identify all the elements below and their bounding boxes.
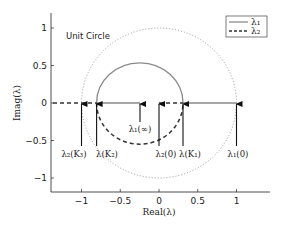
- x-axis-title: Real(λ): [142, 207, 175, 217]
- label-lambda-k2: λ(K₂): [96, 149, 118, 159]
- legend-label-lambda2: λ₂: [251, 26, 261, 36]
- y-tick-label: −0.5: [25, 136, 47, 146]
- x-tick-label: −0.5: [109, 196, 131, 206]
- label-lambda1-0: λ₁(0): [228, 149, 249, 159]
- lambda1-arc: [97, 63, 183, 103]
- y-tick-label: 0: [41, 98, 47, 108]
- y-tick-label: −1: [34, 173, 47, 183]
- x-tick-label: 0: [156, 196, 162, 206]
- unit-circle-label: Unit Circle: [66, 31, 110, 41]
- x-ticks: −1 −0.5 0 0.5 1: [75, 189, 240, 206]
- y-tick-label: 1: [41, 23, 47, 33]
- axes: 1 0.5 0 −0.5 −1 −1 −0.5 0 0.5 1 Real(λ) …: [12, 13, 270, 217]
- label-lambda-k1: λ(K₁): [179, 149, 201, 159]
- series-lambda2: [53, 103, 183, 144]
- label-lambda1-inf: λ₁(∞): [129, 124, 152, 134]
- y-tick-label: 0.5: [33, 61, 47, 71]
- y-ticks: 1 0.5 0 −0.5 −1: [25, 23, 54, 183]
- x-tick-label: 1: [234, 196, 240, 206]
- annotation-labels: λ₂(K₃) λ(K₂) λ₁(∞) λ₂(0) λ(K₁) λ₁(0): [61, 124, 248, 159]
- legend-box: [226, 16, 267, 37]
- root-locus-chart: 1 0.5 0 −0.5 −1 −1 −0.5 0 0.5 1 Real(λ) …: [0, 0, 283, 227]
- x-tick-label: −1: [75, 196, 88, 206]
- x-tick-label: 0.5: [191, 196, 205, 206]
- legend: λ₁ λ₂: [226, 16, 267, 37]
- annotation-arrows: [82, 104, 237, 146]
- label-lambda2-k3: λ₂(K₃): [61, 149, 86, 159]
- label-lambda2-0: λ₂(0): [156, 149, 177, 159]
- y-axis-title: Imag(λ): [12, 85, 22, 121]
- series-lambda1: [97, 63, 237, 103]
